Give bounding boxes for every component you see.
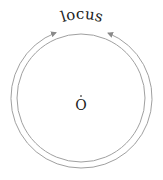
center-label: O <box>75 97 86 113</box>
locus-label: locus <box>58 5 105 26</box>
locus-diagram: locus O <box>0 0 163 180</box>
outer-arc-right-arrow <box>81 33 152 168</box>
outer-arc-left-arrow <box>11 33 81 168</box>
